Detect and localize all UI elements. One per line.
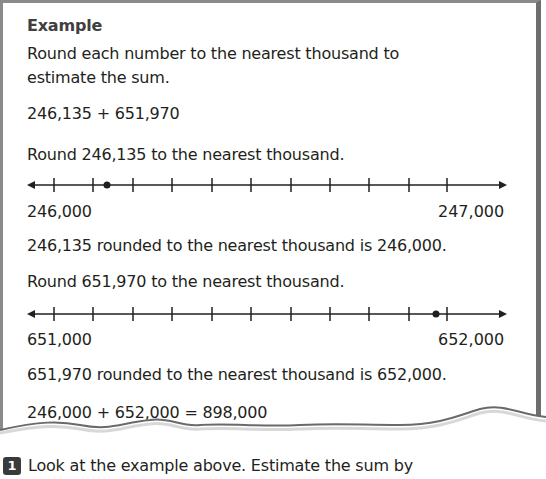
intro-line-1: Round each number to the nearest thousan… bbox=[27, 44, 399, 63]
point-651970 bbox=[433, 311, 440, 318]
line2-left-label: 651,000 bbox=[27, 330, 92, 349]
number-line-1 bbox=[27, 173, 507, 197]
question-text: Look at the example above. Estimate the … bbox=[28, 456, 413, 475]
torn-edge bbox=[0, 395, 546, 445]
number-line-2 bbox=[27, 302, 507, 326]
intro-line-2: estimate the sum. bbox=[27, 68, 170, 87]
line1-left-label: 246,000 bbox=[27, 202, 92, 221]
expression: 246,135 + 651,970 bbox=[27, 104, 180, 123]
step1-prompt: Round 246,135 to the nearest thousand. bbox=[27, 145, 344, 164]
step2-prompt: Round 651,970 to the nearest thousand. bbox=[27, 272, 344, 291]
step2-result: 651,970 rounded to the nearest thousand … bbox=[27, 365, 447, 384]
point-246135 bbox=[104, 182, 111, 189]
step1-result: 246,135 rounded to the nearest thousand … bbox=[27, 236, 447, 255]
example-title: Example bbox=[27, 16, 102, 35]
line2-right-label: 652,000 bbox=[438, 330, 504, 349]
line1-right-label: 247,000 bbox=[438, 202, 504, 221]
question-number-badge: 1 bbox=[3, 457, 21, 475]
